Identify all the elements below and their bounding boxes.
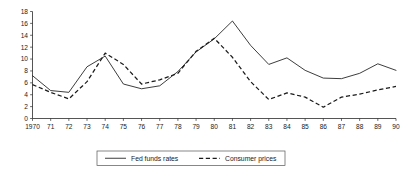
y-tick-label: 6 bbox=[24, 79, 28, 86]
x-tick-label: 83 bbox=[265, 123, 273, 130]
series-layer bbox=[33, 21, 397, 107]
x-tick-label: 81 bbox=[229, 123, 237, 130]
chart-canvas: 024681012141618 197071727374757677787980… bbox=[0, 0, 405, 172]
x-tick-label: 82 bbox=[247, 123, 255, 130]
x-tick-label: 73 bbox=[83, 123, 91, 130]
y-tick-label: 4 bbox=[24, 91, 28, 98]
x-tick-label: 86 bbox=[320, 123, 328, 130]
y-tick-label: 18 bbox=[21, 8, 29, 15]
y-tick-label: 12 bbox=[21, 44, 29, 51]
y-tick-label: 0 bbox=[24, 115, 28, 122]
x-tick-label: 72 bbox=[65, 123, 73, 130]
x-tick-label: 84 bbox=[283, 123, 291, 130]
series-line-consumer-prices bbox=[33, 38, 397, 107]
x-tick-label: 74 bbox=[102, 123, 110, 130]
x-tick-label: 75 bbox=[120, 123, 128, 130]
y-tick-label: 16 bbox=[21, 20, 29, 27]
x-tick-label: 90 bbox=[392, 123, 400, 130]
y-tick-label: 2 bbox=[24, 103, 28, 110]
x-axis: 1970717273747576777879808182838485868788… bbox=[25, 119, 400, 131]
y-tick-label: 10 bbox=[21, 55, 29, 62]
y-axis: 024681012141618 bbox=[21, 8, 33, 122]
legend-label: Consumer prices bbox=[225, 155, 277, 163]
x-tick-label: 80 bbox=[211, 123, 219, 130]
x-tick-label: 87 bbox=[338, 123, 346, 130]
y-tick-label: 8 bbox=[24, 67, 28, 74]
x-tick-label: 76 bbox=[138, 123, 146, 130]
x-tick-label: 79 bbox=[192, 123, 200, 130]
x-tick-label: 88 bbox=[356, 123, 364, 130]
chart-legend: Fed funds ratesConsumer prices bbox=[97, 151, 285, 166]
x-tick-label: 89 bbox=[374, 123, 382, 130]
x-tick-label: 77 bbox=[156, 123, 164, 130]
x-tick-label: 1970 bbox=[25, 123, 40, 130]
x-tick-label: 85 bbox=[301, 123, 309, 130]
x-tick-label: 71 bbox=[47, 123, 55, 130]
legend-label: Fed funds rates bbox=[131, 155, 179, 162]
x-tick-label: 78 bbox=[174, 123, 182, 130]
line-chart: 024681012141618 197071727374757677787980… bbox=[0, 0, 405, 172]
y-tick-label: 14 bbox=[21, 32, 29, 39]
